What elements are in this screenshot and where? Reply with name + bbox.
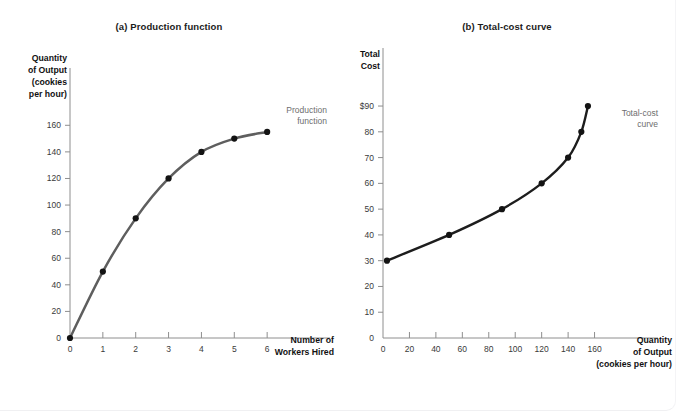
x-tick-label: 160 bbox=[587, 344, 601, 354]
y-tick-label: 60 bbox=[52, 253, 62, 263]
y-tick-label: 0 bbox=[369, 333, 374, 343]
total-cost-curve-chart: TotalCost01020304050607080$9002040608010… bbox=[338, 0, 676, 411]
data-point-marker bbox=[67, 335, 73, 341]
x-tick-label: 140 bbox=[561, 344, 575, 354]
x-tick-label: 20 bbox=[405, 344, 415, 354]
y-tick-label: 80 bbox=[365, 127, 375, 137]
chart-panel-production-function: (a) Production function Quantityof Outpu… bbox=[0, 0, 338, 411]
x-axis-title-line: Number of bbox=[291, 335, 335, 345]
y-tick-label: 20 bbox=[52, 306, 62, 316]
y-tick-label: 60 bbox=[365, 178, 375, 188]
y-tick-label: 40 bbox=[365, 230, 375, 240]
y-tick-label: 100 bbox=[47, 200, 61, 210]
data-point-marker bbox=[446, 232, 452, 238]
series-annotation-line: curve bbox=[637, 119, 658, 129]
series-annotation-line: Total-cost bbox=[622, 108, 659, 118]
x-tick-label: 1 bbox=[100, 344, 105, 354]
x-tick-label: 5 bbox=[232, 344, 237, 354]
x-axis-title-line: Workers Hired bbox=[275, 347, 334, 357]
data-point-marker bbox=[198, 149, 204, 155]
x-tick-label: 0 bbox=[381, 344, 386, 354]
data-point-marker bbox=[578, 129, 584, 135]
x-tick-label: 0 bbox=[68, 344, 73, 354]
data-point-marker bbox=[499, 206, 505, 212]
data-point-marker bbox=[264, 129, 270, 135]
figure-container: (a) Production function Quantityof Outpu… bbox=[0, 0, 676, 411]
data-point-marker bbox=[100, 268, 106, 274]
y-tick-label: 30 bbox=[365, 256, 375, 266]
data-point-marker bbox=[165, 175, 171, 181]
series-annotation-line: function bbox=[297, 116, 327, 126]
data-point-marker bbox=[585, 103, 591, 109]
data-curve bbox=[387, 106, 588, 261]
series-annotation-line: Production bbox=[286, 105, 327, 115]
chart-panel-total-cost-curve: (b) Total-cost curve TotalCost0102030405… bbox=[338, 0, 676, 411]
y-axis-title-line: Quantity bbox=[32, 53, 67, 63]
y-axis-title-line: Total bbox=[360, 49, 380, 59]
y-tick-label: 70 bbox=[365, 153, 375, 163]
data-curve bbox=[70, 132, 267, 338]
x-tick-label: 3 bbox=[166, 344, 171, 354]
x-axis-title-line: Quantity bbox=[637, 335, 672, 345]
y-tick-label: 10 bbox=[365, 307, 375, 317]
production-function-chart: Quantityof Output(cookiesper hour)020406… bbox=[0, 0, 338, 411]
x-tick-label: 40 bbox=[431, 344, 441, 354]
y-tick-label: 120 bbox=[47, 173, 61, 183]
y-tick-label: 140 bbox=[47, 147, 61, 157]
x-tick-label: 2 bbox=[133, 344, 138, 354]
data-point-marker bbox=[231, 135, 237, 141]
x-axis-title-line: of Output bbox=[633, 347, 672, 357]
x-axis-title-line: (cookies per hour) bbox=[596, 359, 672, 369]
x-tick-label: 100 bbox=[508, 344, 522, 354]
x-tick-label: 4 bbox=[199, 344, 204, 354]
y-tick-label: 20 bbox=[365, 281, 375, 291]
data-point-marker bbox=[133, 215, 139, 221]
y-axis-title-line: Cost bbox=[361, 61, 380, 71]
y-tick-label: 40 bbox=[52, 280, 62, 290]
y-tick-label: 160 bbox=[47, 120, 61, 130]
y-axis-title-line: per hour) bbox=[29, 89, 67, 99]
x-tick-label: 60 bbox=[458, 344, 468, 354]
x-tick-label: 80 bbox=[484, 344, 494, 354]
y-tick-label: 80 bbox=[52, 227, 62, 237]
data-point-marker bbox=[565, 154, 571, 160]
data-point-marker bbox=[539, 180, 545, 186]
y-axis-title-line: of Output bbox=[28, 65, 67, 75]
data-point-marker bbox=[384, 258, 390, 264]
y-tick-label: $90 bbox=[360, 101, 374, 111]
y-axis-title-line: (cookies bbox=[32, 77, 67, 87]
x-tick-label: 6 bbox=[265, 344, 270, 354]
y-tick-label: 0 bbox=[56, 333, 61, 343]
y-tick-label: 50 bbox=[365, 204, 375, 214]
x-tick-label: 120 bbox=[535, 344, 549, 354]
